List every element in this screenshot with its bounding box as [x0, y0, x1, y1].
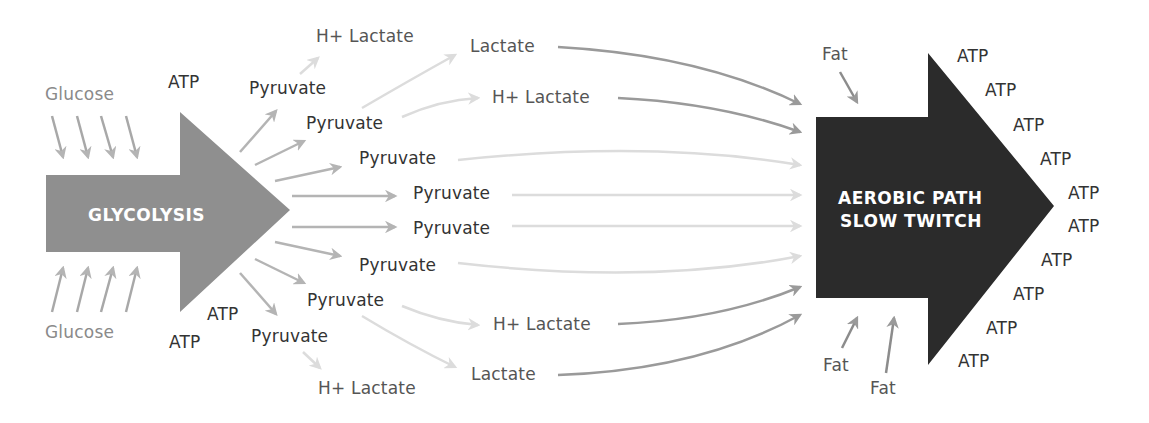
atp-glycolysis-top: ATP: [168, 74, 200, 91]
atp-output-7: ATP: [1041, 252, 1073, 269]
pyruvate-4: Pyruvate: [413, 185, 490, 202]
atp-glycolysis-bottom-1: ATP: [207, 306, 239, 323]
atp-output-6: ATP: [1068, 218, 1100, 235]
h-lactate-bottom-right: H+ Lactate: [493, 316, 591, 333]
glucose-label-bottom: Glucose: [45, 324, 114, 341]
fat-label-bottom-1: Fat: [823, 357, 849, 374]
pyruvate-2: Pyruvate: [306, 115, 383, 132]
atp-output-2: ATP: [985, 82, 1017, 99]
aerobic-label-line2: SLOW TWITCH: [840, 210, 982, 232]
fat-label-bottom-2: Fat: [870, 380, 896, 397]
pyruvate-1: Pyruvate: [249, 80, 326, 97]
aerobic-arrow: [816, 53, 1054, 365]
pyruvate-3: Pyruvate: [359, 150, 436, 167]
atp-glycolysis-bottom-2: ATP: [169, 334, 201, 351]
pyruvate-8: Pyruvate: [251, 328, 328, 345]
h-lactate-bottom-left: H+ Lactate: [318, 380, 416, 397]
aerobic-label-line1: AEROBIC PATH: [838, 187, 983, 209]
atp-output-8: ATP: [1013, 286, 1045, 303]
atp-output-3: ATP: [1013, 117, 1045, 134]
pyruvate-6: Pyruvate: [359, 257, 436, 274]
atp-output-9: ATP: [986, 320, 1018, 337]
pyruvate-5: Pyruvate: [413, 220, 490, 237]
atp-output-10: ATP: [958, 353, 990, 370]
lactate-bottom: Lactate: [471, 366, 536, 383]
glucose-input-arrows-bottom: [52, 268, 137, 312]
pyruvate-to-lactate-arrows: [300, 55, 478, 368]
glucose-input-arrows-top: [52, 116, 137, 157]
atp-output-4: ATP: [1040, 151, 1072, 168]
atp-output-1: ATP: [957, 48, 989, 65]
glycolysis-label: GLYCOLYSIS: [88, 204, 205, 226]
fat-label-top: Fat: [822, 46, 848, 63]
glucose-label-top: Glucose: [45, 86, 114, 103]
atp-output-5: ATP: [1068, 185, 1100, 202]
lactate-top: Lactate: [470, 38, 535, 55]
h-lactate-top-left: H+ Lactate: [316, 28, 414, 45]
h-lactate-top-right: H+ Lactate: [492, 89, 590, 106]
pyruvate-7: Pyruvate: [307, 292, 384, 309]
